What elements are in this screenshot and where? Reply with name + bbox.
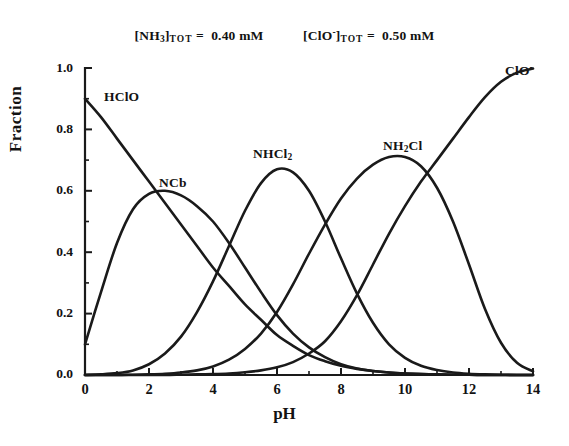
- species-curve-hclo: [85, 99, 533, 375]
- axis-ticks: [85, 68, 533, 375]
- species-curve-nhcl2: [85, 169, 533, 376]
- plot-canvas: [0, 0, 569, 446]
- axis-frame: [85, 68, 533, 375]
- species-curve-ncl3: [85, 191, 533, 375]
- speciation-figure: [NH3]TOT = 0.40 mM [ClO-]TOT = 0.50 mM F…: [0, 0, 569, 446]
- axis-lines: [85, 68, 533, 375]
- species-curve-clo: [85, 69, 533, 375]
- species-curves: [85, 69, 533, 375]
